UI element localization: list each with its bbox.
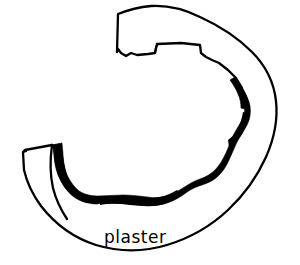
plaster-label: plaster (104, 227, 166, 247)
figure-background (0, 0, 300, 265)
vessel-profile-drawing: plaster (0, 0, 300, 265)
figure-container: plaster (0, 0, 300, 265)
